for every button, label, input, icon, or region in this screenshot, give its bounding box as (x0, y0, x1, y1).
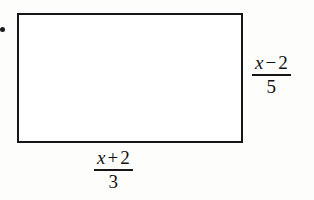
fraction-height-numerator: x−2 (252, 53, 291, 74)
fraction-height-denominator: 5 (252, 76, 291, 97)
fraction-width-numerator: x+2 (94, 148, 133, 169)
figure-canvas: x−2 5 x+2 3 (0, 0, 314, 200)
side-label-bottom-width: x+2 3 (94, 148, 133, 192)
fraction-width-denominator: 3 (94, 171, 133, 192)
fraction-width-numerator-operator: + (105, 147, 120, 168)
fraction-width-numerator-constant: 2 (120, 147, 130, 168)
fraction-height: x−2 5 (252, 53, 291, 97)
fraction-width: x+2 3 (94, 148, 133, 192)
fraction-height-numerator-operator: − (263, 52, 278, 73)
side-label-right-height: x−2 5 (252, 53, 291, 97)
fraction-height-numerator-constant: 2 (278, 52, 288, 73)
margin-bullet-dot (0, 27, 5, 32)
rectangle-shape (17, 13, 243, 143)
